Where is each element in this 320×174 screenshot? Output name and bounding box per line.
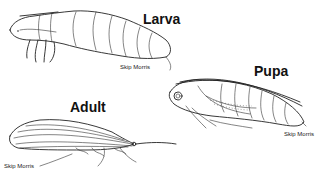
caddisfly-life-stages-figure: Larva Skip Morris Pupa Skip Morris Adult… <box>0 0 320 174</box>
pupa-credit: Skip Morris <box>284 131 314 137</box>
pupa-illustration <box>169 79 306 128</box>
larva-credit: Skip Morris <box>120 64 150 70</box>
larva-label: Larva <box>143 12 180 26</box>
adult-credit: Skip Morris <box>4 163 34 169</box>
pupa-label: Pupa <box>254 64 288 78</box>
adult-label: Adult <box>70 100 106 114</box>
adult-illustration <box>9 120 176 166</box>
